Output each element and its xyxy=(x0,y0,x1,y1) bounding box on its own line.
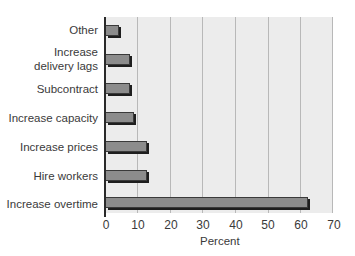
category-label-increase-overtime: Increase overtime xyxy=(7,198,98,211)
x-tick-60: 60 xyxy=(286,218,316,232)
gridline-70 xyxy=(332,17,333,213)
y-axis-line xyxy=(104,17,106,217)
gridline-40 xyxy=(235,17,236,213)
x-tick-70: 70 xyxy=(319,218,349,232)
category-label-subcontract: Subcontract xyxy=(37,83,98,96)
x-tick-40: 40 xyxy=(221,218,251,232)
gridline-50 xyxy=(268,17,269,213)
gridline-30 xyxy=(202,17,203,213)
gridline-20 xyxy=(170,17,171,213)
category-label-increase-capacity: Increase capacity xyxy=(9,112,99,125)
plot-area xyxy=(105,17,333,213)
gridline-60 xyxy=(300,17,301,213)
x-tick-20: 20 xyxy=(156,218,186,232)
bar-other xyxy=(106,25,119,36)
x-tick-30: 30 xyxy=(188,218,218,232)
category-label-delivery-lags-line2: delivery lags xyxy=(34,60,98,73)
category-label-increase-prices: Increase prices xyxy=(20,141,98,154)
x-tick-50: 50 xyxy=(253,218,283,232)
bar-increase-prices xyxy=(106,141,147,152)
x-axis-title: Percent xyxy=(200,235,240,247)
bar-increase-delivery-lags xyxy=(106,54,130,65)
bar-subcontract xyxy=(106,83,130,94)
bar-increase-capacity xyxy=(106,112,134,123)
category-label-hire-workers: Hire workers xyxy=(33,170,98,183)
x-tick-0: 0 xyxy=(91,218,121,232)
bar-hire-workers xyxy=(106,170,147,181)
x-tick-10: 10 xyxy=(123,218,153,232)
bar-increase-overtime xyxy=(106,197,308,208)
category-label-delivery-lags-line1: Increase xyxy=(54,46,98,59)
category-label-other: Other xyxy=(69,24,98,37)
gridline-10 xyxy=(137,17,138,213)
